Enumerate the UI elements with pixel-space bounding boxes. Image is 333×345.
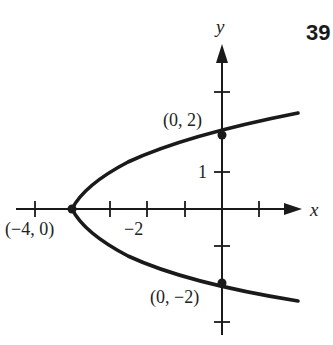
point-0-2 (218, 131, 227, 140)
point-label-bottom: (0, −2) (150, 287, 199, 308)
x-axis-label: x (309, 199, 319, 220)
x-axis-arrow-icon (284, 203, 302, 215)
y-axis-arrow-icon (216, 44, 228, 63)
x-tick-label-minus2: −2 (124, 219, 143, 239)
problem-number: 39 (306, 20, 330, 45)
y-tick-label-1: 1 (198, 162, 207, 182)
point-label-top: (0, 2) (163, 110, 202, 131)
point-label-vertex: (−4, 0) (5, 219, 54, 240)
point-0-minus2 (218, 279, 227, 288)
point-minus4-0 (68, 205, 77, 214)
parabola-graph: 39 x −2 y 1 (0, 2) (−4, 0) (0, (0, 0, 333, 345)
x-axis: x −2 (16, 199, 319, 239)
y-axis-label: y (214, 16, 225, 37)
